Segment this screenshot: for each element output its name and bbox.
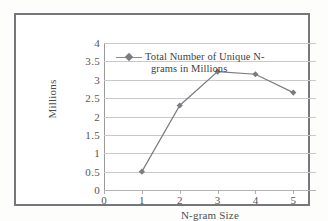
x-axis-tick-label: 1 [132, 195, 152, 206]
chart-legend: Total Number of Unique N- grams in Milli… [116, 51, 265, 75]
y-axis-tick-label: 1 [66, 148, 100, 159]
plot-area: Total Number of Unique N- grams in Milli… [104, 43, 316, 190]
chart-page: Millions 00.511.522.533.54 Total Number … [0, 0, 328, 221]
legend-label-line2: grams in Millions [145, 63, 265, 75]
y-axis-tick-label: 3 [66, 75, 100, 86]
data-point-marker [139, 169, 145, 175]
x-axis-tick-mark [218, 190, 219, 194]
x-axis-tick-label: 0 [94, 195, 114, 206]
y-axis-tick-label: 3.5 [66, 56, 100, 67]
y-axis-tick-label: 2.5 [66, 93, 100, 104]
x-axis-tick-label: 2 [170, 195, 190, 206]
x-axis-tick-label: 5 [283, 195, 303, 206]
y-axis-title: Millions [46, 59, 58, 139]
x-axis-tick-mark [180, 190, 181, 194]
y-axis-tick-label: 2 [66, 112, 100, 123]
y-axis-tick-label: 0.5 [66, 167, 100, 178]
x-axis-tick-mark [104, 190, 105, 194]
y-axis-tick-label: 1.5 [66, 130, 100, 141]
x-axis-tick-label: 4 [245, 195, 265, 206]
gridline [104, 190, 316, 191]
data-point-marker [290, 90, 296, 96]
x-axis-title: N-gram Size [104, 209, 316, 221]
series-markers [139, 69, 297, 175]
y-axis-tick-label: 4 [66, 38, 100, 49]
x-axis-tick-label: 3 [208, 195, 228, 206]
series-line [142, 72, 293, 172]
chart-frame: Millions 00.511.522.533.54 Total Number … [14, 13, 310, 206]
legend-label: Total Number of Unique N- grams in Milli… [145, 51, 265, 75]
x-axis-tick-mark [142, 190, 143, 194]
x-axis-tick-mark [293, 190, 294, 194]
legend-label-line1: Total Number of Unique N- [145, 51, 265, 62]
y-axis-tick-labels: 00.511.522.533.54 [62, 43, 100, 190]
x-axis-tick-mark [255, 190, 256, 194]
legend-marker-icon [116, 52, 142, 63]
